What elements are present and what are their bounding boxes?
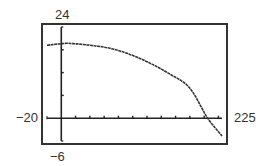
axis-ticks <box>61 50 218 118</box>
xmin-label: −20 <box>16 111 38 124</box>
function-curve <box>47 43 222 136</box>
graph-window <box>0 0 258 166</box>
xmax-label: 225 <box>234 111 256 124</box>
ymax-label: 24 <box>55 8 69 21</box>
ymin-label: −6 <box>50 150 65 163</box>
viewing-window-frame <box>42 24 227 144</box>
